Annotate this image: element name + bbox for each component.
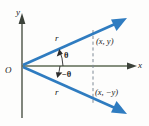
x-axis-label: x	[138, 61, 142, 70]
polar-coordinate-figure: y x O r θ (x, y) r −θ (x, −y)	[0, 0, 149, 126]
radius-label-lower: r	[55, 88, 59, 97]
point-label-lower: (x, −y)	[95, 88, 118, 97]
angle-label-negative-theta: −θ	[62, 70, 71, 79]
angle-arc-theta	[57, 49, 63, 66]
figure-canvas	[0, 0, 149, 126]
origin-label: O	[5, 66, 12, 75]
y-axis-label: y	[16, 8, 20, 17]
radius-label-upper: r	[55, 34, 59, 43]
x-axis	[22, 62, 137, 69]
point-label-upper: (x, y)	[96, 37, 113, 46]
angle-label-theta: θ	[64, 51, 68, 60]
